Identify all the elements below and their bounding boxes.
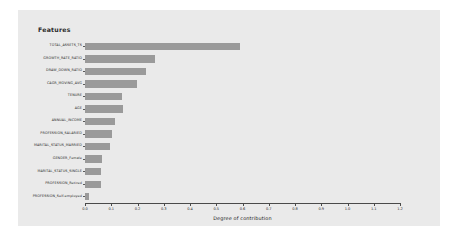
bar — [85, 105, 123, 112]
y-axis-tick-label: PROFESSION_SALARIED — [40, 131, 82, 135]
bar — [85, 43, 240, 50]
y-axis-tick-label: GENDER_Female — [53, 156, 82, 160]
y-axis-tick-label: PROFESSION_Retired — [45, 181, 82, 185]
bar — [85, 55, 155, 62]
x-axis-tick-label: 0.4 — [187, 207, 193, 211]
x-axis-title: Degree of contribution — [85, 215, 400, 221]
x-axis-tick-label: 0.8 — [292, 207, 298, 211]
bar-row: TOTAL_ASSETS_TS — [85, 40, 400, 53]
bar-row: CAGR_MOVING_AVG — [85, 78, 400, 91]
x-axis-tick-label: 0.6 — [240, 207, 246, 211]
bar — [85, 143, 110, 150]
y-axis-tick-label: GROWTH_RATE_RATIO — [43, 56, 82, 60]
x-axis-tick — [111, 203, 112, 206]
bar-row: ANNUAL_INCOME — [85, 115, 400, 128]
x-axis-tick — [190, 203, 191, 206]
y-axis-tick-label: ANNUAL_INCOME — [52, 118, 82, 122]
x-axis-tick — [243, 203, 244, 206]
y-axis-tick-label: TENURE — [68, 93, 82, 97]
x-axis-tick-label: 1.2 — [397, 207, 403, 211]
x-axis-tick — [400, 203, 401, 206]
bar — [85, 68, 146, 75]
bar-row: GENDER_Female — [85, 153, 400, 166]
x-axis-tick — [348, 203, 349, 206]
y-axis-tick-label: TOTAL_ASSETS_TS — [50, 43, 82, 47]
legend-title: Features — [38, 26, 71, 33]
bar-row: MARITAL_STATUS_SINGLE — [85, 165, 400, 178]
bar — [85, 193, 89, 200]
bar-row: DRAW_DOWN_RATIO — [85, 65, 400, 78]
bar-row: AGE — [85, 103, 400, 116]
x-axis-tick — [216, 203, 217, 206]
y-axis-tick-label: MARITAL_STATUS_SINGLE — [37, 169, 82, 173]
x-axis-tick — [295, 203, 296, 206]
bar — [85, 181, 101, 188]
x-axis-tick-label: 0.5 — [213, 207, 219, 211]
y-axis-tick-label: DRAW_DOWN_RATIO — [46, 68, 82, 72]
x-axis-tick-label: 0.3 — [161, 207, 167, 211]
x-axis-tick-label: 0.7 — [266, 207, 272, 211]
bar — [85, 155, 102, 162]
y-axis-tick-label: CAGR_MOVING_AVG — [47, 81, 82, 85]
y-axis-tick-label: MARITAL_STATUS_MARRIED — [34, 143, 82, 147]
x-axis-tick — [164, 203, 165, 206]
bar — [85, 168, 101, 175]
x-axis-tick — [138, 203, 139, 206]
x-axis-tick-label: 1.0 — [345, 207, 351, 211]
x-axis-tick-label: 1.1 — [371, 207, 377, 211]
x-axis-tick-label: 0.9 — [318, 207, 324, 211]
bar — [85, 80, 137, 87]
figure-panel: Features TOTAL_ASSETS_TSGROWTH_RATE_RATI… — [18, 10, 440, 226]
x-axis-tick-label: 0.0 — [82, 207, 88, 211]
x-axis-tick — [374, 203, 375, 206]
bar-row: GROWTH_RATE_RATIO — [85, 53, 400, 66]
bar — [85, 118, 115, 125]
x-axis-tick — [321, 203, 322, 206]
bar-row: PROFESSION_Self-employed — [85, 190, 400, 203]
bar-row: PROFESSION_Retired — [85, 178, 400, 191]
x-axis-tick — [85, 203, 86, 206]
bar — [85, 93, 122, 100]
y-axis-tick-label: PROFESSION_Self-employed — [33, 194, 82, 198]
x-axis-tick-label: 0.1 — [108, 207, 114, 211]
bar — [85, 130, 112, 137]
bar-row: PROFESSION_SALARIED — [85, 128, 400, 141]
x-axis-tick-label: 0.2 — [135, 207, 141, 211]
y-axis-tick-label: AGE — [75, 106, 82, 110]
bar-row: TENURE — [85, 90, 400, 103]
x-axis-tick — [269, 203, 270, 206]
bar-row: MARITAL_STATUS_MARRIED — [85, 140, 400, 153]
